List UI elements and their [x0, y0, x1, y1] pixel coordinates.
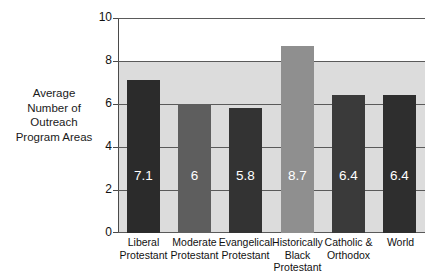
bar-liberal-protestant[interactable]: 7.1: [127, 80, 160, 233]
plot-background-upper: [118, 18, 425, 61]
gridline-4: [118, 147, 425, 148]
y-tick-mark-0: [113, 232, 118, 233]
y-axis-title: Average Number of Outreach Program Areas: [6, 86, 102, 144]
y-tick-label-8: 8: [92, 53, 112, 67]
bar-chart-figure: Average Number of Outreach Program Areas…: [0, 0, 441, 280]
y-tick-mark-6: [113, 104, 118, 105]
bar-world[interactable]: 6.4: [383, 95, 416, 233]
plot-area: 7.1 6 5.8 8.7 6.4 6.4: [118, 18, 425, 233]
x-label-evangelical-protestant: Evangelical Protestant: [217, 236, 274, 261]
bar-catholic-orthodox[interactable]: 6.4: [332, 95, 365, 233]
y-axis-tick-labels: 10 8 6 4 2 0: [90, 18, 112, 233]
y-tick-label-4: 4: [92, 139, 112, 153]
gridline-2: [118, 190, 425, 191]
gridline-6: [118, 104, 425, 105]
x-label-catholic-orthodox: Catholic & Orthodox: [321, 236, 376, 261]
x-label-historically-black-protestant: Historically Black Protestant: [270, 236, 325, 274]
bar-value-label: 6: [178, 168, 211, 183]
x-axis-category-labels: Liberal Protestant Moderate Protestant E…: [118, 236, 425, 280]
y-tick-mark-10: [113, 18, 118, 19]
bar-value-label: 6.4: [332, 168, 365, 183]
bar-value-label: 7.1: [127, 168, 160, 183]
y-tick-label-10: 10: [92, 10, 112, 24]
y-tick-label-6: 6: [92, 96, 112, 110]
bar-moderate-protestant[interactable]: 6: [178, 104, 211, 233]
bar-value-label: 6.4: [383, 168, 416, 183]
y-tick-mark-2: [113, 190, 118, 191]
y-axis-line: [118, 18, 119, 233]
bar-historically-black-protestant[interactable]: 8.7: [281, 46, 314, 233]
gridline-0: [118, 232, 425, 233]
bar-evangelical-protestant[interactable]: 5.8: [229, 108, 262, 233]
gridline-8: [118, 61, 425, 62]
y-tick-mark-8: [113, 61, 118, 62]
x-label-world: World: [373, 236, 428, 249]
gridline-10: [118, 18, 425, 19]
x-label-moderate-protestant: Moderate Protestant: [167, 236, 222, 261]
y-tick-label-2: 2: [92, 182, 112, 196]
bar-value-label: 5.8: [229, 168, 262, 183]
x-label-liberal-protestant: Liberal Protestant: [116, 236, 171, 261]
bar-value-label: 8.7: [281, 168, 314, 183]
y-tick-label-0: 0: [92, 225, 112, 239]
y-tick-mark-4: [113, 147, 118, 148]
